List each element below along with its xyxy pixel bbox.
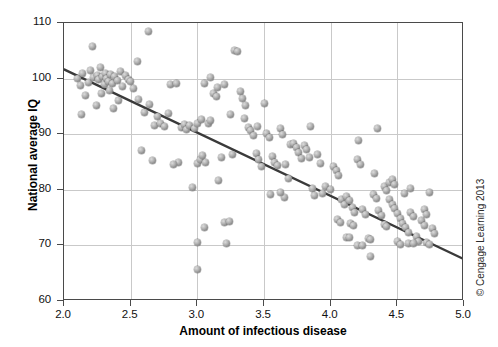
scatter-plot-figure: 2.02.53.03.54.04.55.060708090100110 Amou… (0, 0, 498, 347)
x-axis-tick (130, 300, 131, 306)
data-point (115, 97, 122, 104)
data-point (149, 157, 156, 164)
x-axis-tick-label: 4.0 (308, 308, 352, 320)
x-axis-tick (463, 300, 464, 306)
data-point (306, 154, 313, 161)
data-point (79, 70, 86, 77)
data-point (367, 236, 374, 243)
data-point (119, 83, 126, 90)
data-point (223, 240, 230, 247)
data-point (303, 146, 310, 153)
data-point (106, 87, 113, 94)
data-point (202, 159, 209, 166)
data-point (282, 161, 289, 168)
data-point (410, 240, 417, 247)
data-point (314, 151, 321, 158)
data-point (426, 241, 433, 248)
data-point (421, 222, 428, 229)
data-point (311, 192, 318, 199)
x-axis-tick-label: 3.0 (174, 308, 218, 320)
data-point (250, 132, 257, 139)
data-point (213, 93, 220, 100)
data-point (335, 172, 342, 179)
data-point (401, 190, 408, 197)
data-point (277, 189, 284, 196)
data-point (130, 85, 137, 92)
data-point (241, 115, 248, 122)
data-point (194, 266, 201, 273)
data-point (405, 229, 412, 236)
data-point (431, 230, 438, 237)
data-point (423, 211, 430, 218)
data-point (226, 218, 233, 225)
data-point (317, 160, 324, 167)
y-axis-tick (57, 244, 63, 245)
data-point (165, 110, 172, 117)
data-point (274, 162, 281, 169)
data-point (378, 212, 385, 219)
data-point (221, 81, 228, 88)
y-axis-title: National average IQ (26, 60, 40, 250)
data-point (198, 116, 205, 123)
data-point (319, 190, 326, 197)
data-point (78, 111, 85, 118)
data-point (173, 80, 180, 87)
x-axis-tick (396, 300, 397, 306)
data-point (279, 131, 286, 138)
data-point (214, 84, 221, 91)
data-point (201, 80, 208, 87)
data-point (307, 123, 314, 130)
data-point (87, 67, 94, 74)
data-point (350, 222, 357, 229)
data-point (146, 101, 153, 108)
data-points (64, 23, 462, 299)
data-point (258, 163, 265, 170)
x-axis-tick (196, 300, 197, 306)
x-axis-tick-label: 2.0 (41, 308, 85, 320)
data-point (298, 155, 305, 162)
data-point (189, 184, 196, 191)
y-axis-tick (57, 133, 63, 134)
data-point (134, 58, 141, 65)
data-point (201, 224, 208, 231)
data-point (218, 154, 225, 161)
x-axis-tick-label: 2.5 (108, 308, 152, 320)
data-point (141, 109, 148, 116)
data-point (351, 209, 358, 216)
data-point (227, 111, 234, 118)
data-point (261, 100, 268, 107)
data-point (266, 134, 273, 141)
data-point (371, 170, 378, 177)
data-point (254, 123, 261, 130)
data-point (110, 105, 117, 112)
data-point (397, 241, 404, 248)
data-point (145, 28, 152, 35)
y-axis-tick-label: 60 (21, 293, 51, 305)
x-axis-tick (63, 300, 64, 306)
y-axis-tick (57, 300, 63, 301)
copyright-notice: © Cengage Learning 2013 (475, 153, 486, 323)
x-axis-tick (263, 300, 264, 306)
data-point (234, 48, 241, 55)
data-point (267, 191, 274, 198)
data-point (426, 189, 433, 196)
data-point (407, 185, 414, 192)
data-point (410, 213, 417, 220)
plot-area (63, 22, 463, 300)
data-point (383, 223, 390, 230)
data-point (229, 151, 236, 158)
x-axis-title: Amount of infectious disease (63, 324, 463, 338)
data-point (154, 113, 161, 120)
data-point (367, 253, 374, 260)
data-point (242, 102, 249, 109)
data-point (355, 137, 362, 144)
data-point (207, 74, 214, 81)
data-point (285, 175, 292, 182)
data-point (170, 161, 177, 168)
data-point (98, 90, 105, 97)
data-point (362, 211, 369, 218)
x-axis-tick-label: 4.5 (374, 308, 418, 320)
data-point (194, 239, 201, 246)
y-axis-tick (57, 189, 63, 190)
y-axis-tick (57, 78, 63, 79)
